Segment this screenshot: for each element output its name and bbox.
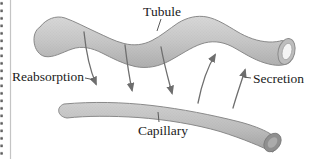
tubule-label: Tubule [143,4,181,19]
tubule-capillary-diagram: Tubule Reabsorption Secretion Capillary [0,0,310,159]
tubule-texture [34,16,292,67]
secretion-label: Secretion [253,71,304,86]
secretion-arrow-1 [198,55,215,103]
secretion-leader-dash [244,77,252,78]
figure-canvas: Tubule Reabsorption Secretion Capillary [0,0,310,159]
reabsorption-label: Reabsorption [12,69,84,84]
capillary-label: Capillary [138,123,188,138]
reabsorption-leader-dash [85,78,93,80]
tubule-leader-line [157,19,161,31]
page-perforation-dots [0,0,4,159]
secretion-arrow-2 [233,70,245,108]
